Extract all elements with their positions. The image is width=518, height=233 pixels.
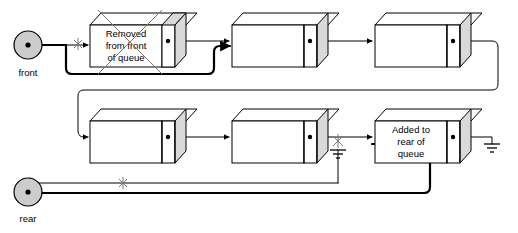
node-removed-line-3: of queue — [108, 52, 145, 63]
node-pointer-dot — [308, 135, 312, 139]
node-2 — [232, 13, 339, 67]
node-removed-line-1: Removed — [106, 28, 147, 39]
node-pointer-dot — [308, 39, 312, 43]
node-pointer-dot — [451, 39, 455, 43]
node-5 — [232, 109, 339, 163]
front-pointer: front — [14, 31, 42, 78]
diagram-canvas: Removed from front of queue — [0, 0, 518, 233]
old-null-ground-icon — [330, 134, 346, 158]
node-3 — [375, 13, 482, 67]
node-pointer-dot — [166, 135, 170, 139]
node-4 — [90, 109, 197, 163]
front-pointer-label: front — [18, 67, 37, 78]
node-added-line-1: Added to — [392, 124, 430, 135]
node-added-line-3: queue — [398, 148, 424, 159]
queue-linked-list-diagram: Removed from front of queue — [0, 0, 518, 233]
rear-pointer: rear — [14, 178, 42, 224]
rear-pointer-label: rear — [20, 213, 37, 224]
front-old-link-strike — [74, 38, 82, 50]
node-pointer-dot — [166, 39, 170, 43]
rear-pointer-dot — [25, 189, 30, 194]
front-pointer-dot — [25, 42, 30, 47]
node-added-line-2: rear of — [397, 136, 425, 147]
node-removed-line-2: from front — [106, 40, 147, 51]
null-ground-icon — [484, 144, 500, 152]
node-removed-from-front: Removed from front of queue — [90, 10, 197, 74]
node-pointer-dot — [451, 135, 455, 139]
node-added-to-rear: Added to rear of queue — [375, 109, 482, 163]
